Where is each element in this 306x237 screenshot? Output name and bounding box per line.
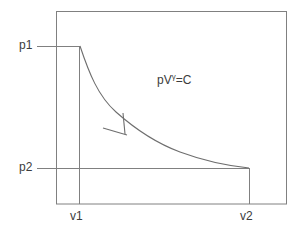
x-axis-label-v2: v2 (240, 210, 253, 222)
pv-diagram-figure: p1 p2 v1 v2 pVγ=C (0, 0, 306, 237)
equation-annotation: pVγ=C (157, 74, 191, 86)
process-direction-arrow-icon (103, 113, 127, 135)
adiabat-curve (80, 46, 249, 168)
y-axis-label-p2: p2 (19, 161, 32, 173)
equation-equals-constant: =C (176, 73, 192, 87)
y-axis-label-p1: p1 (19, 39, 32, 51)
plot-frame (57, 12, 287, 205)
x-axis-label-v1: v1 (70, 210, 83, 222)
pv-diagram-canvas (0, 0, 306, 237)
equation-base: pV (157, 73, 172, 87)
